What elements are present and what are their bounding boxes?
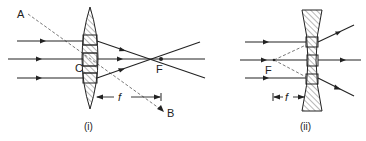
label-c: C [75, 62, 83, 74]
convex-lens [82, 7, 98, 109]
refracted-ray-bottom [97, 42, 200, 78]
label-focal-point: F [156, 63, 163, 75]
diagram-concave-lens: F f (ii) [240, 10, 361, 132]
focal-point-dot [273, 59, 276, 62]
label-focal-length: f [285, 91, 289, 103]
focal-point-dot [159, 57, 163, 61]
virtual-ray-top [274, 45, 306, 60]
label-focal-point: F [265, 64, 272, 76]
caption-i: (i) [84, 121, 93, 132]
label-b: B [167, 107, 174, 119]
label-a: A [17, 8, 25, 20]
virtual-ray-bottom [274, 60, 306, 77]
diagram-convex-lens: A B C F f (i) [8, 7, 205, 132]
caption-ii: (ii) [300, 121, 311, 132]
label-focal-length: f [118, 91, 122, 103]
arrowhead-b [157, 105, 164, 112]
optics-diagram: A B C F f (i) F [0, 0, 366, 141]
